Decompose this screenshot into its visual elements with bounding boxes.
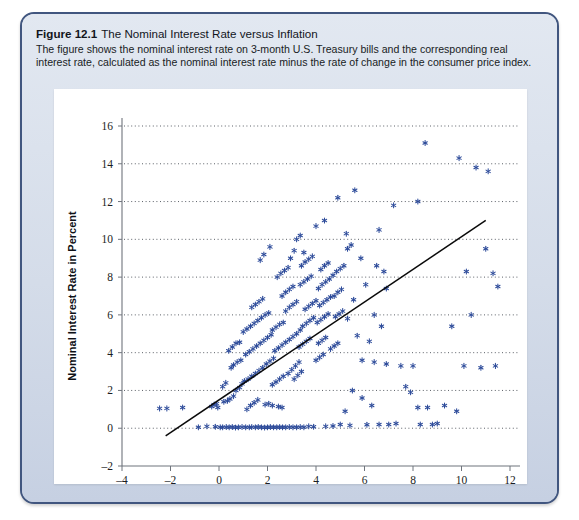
y-tick-label: –2	[101, 460, 114, 472]
regression-line	[166, 220, 486, 435]
data-point	[281, 320, 285, 325]
data-point	[384, 362, 388, 367]
data-point	[374, 263, 378, 268]
data-point	[430, 422, 434, 427]
data-point	[364, 282, 368, 287]
data-point	[265, 425, 269, 430]
data-point	[442, 403, 446, 408]
data-point	[277, 425, 281, 430]
x-tick-label: 6	[362, 474, 368, 484]
data-point	[491, 271, 495, 276]
data-point	[293, 363, 297, 368]
data-point	[296, 373, 300, 378]
data-point	[345, 316, 349, 321]
data-point	[343, 409, 347, 414]
data-point	[457, 156, 461, 161]
data-point	[345, 246, 349, 251]
data-points-group	[157, 141, 500, 430]
data-point	[294, 237, 298, 242]
data-point	[404, 384, 408, 389]
data-point	[382, 269, 386, 274]
data-point	[372, 360, 376, 365]
data-point	[292, 248, 296, 253]
x-tick-label: –4	[115, 474, 128, 484]
data-point	[286, 371, 290, 376]
data-point	[262, 425, 266, 430]
figure-number: Figure 12.1	[36, 27, 97, 40]
x-tick-label: 2	[265, 474, 271, 484]
data-point	[359, 256, 363, 261]
data-point	[377, 422, 381, 427]
x-tick-label: 10	[456, 474, 468, 484]
y-tick-label: 6	[107, 309, 113, 321]
figure-title: Figure 12.1The Nominal Interest Rate ver…	[36, 26, 542, 41]
figure-title-text: The Nominal Interest Rate versus Inflati…	[101, 27, 318, 40]
data-point	[220, 384, 224, 389]
data-point	[344, 231, 348, 236]
data-point	[360, 396, 364, 401]
y-tick-label: 2	[107, 384, 113, 396]
figure-card-inner: Figure 12.1The Nominal Interest Rate ver…	[22, 14, 557, 502]
data-point	[425, 405, 429, 410]
data-point	[298, 328, 302, 333]
data-point	[367, 339, 371, 344]
data-point	[411, 363, 415, 368]
data-point	[418, 422, 422, 427]
data-point	[462, 363, 466, 368]
y-tick-label: 4	[107, 347, 113, 359]
x-tick-label: 0	[216, 474, 222, 484]
data-point	[493, 363, 497, 368]
x-tick-label: 8	[410, 474, 416, 484]
data-point	[387, 422, 391, 427]
data-point	[280, 294, 284, 299]
data-point	[324, 424, 328, 429]
plot-panel: –20246810121416–4–2024681012 Inflation R…	[54, 89, 527, 484]
y-tick-label: 8	[107, 271, 113, 283]
data-point	[302, 250, 306, 255]
data-point	[157, 406, 161, 411]
figure-caption-block: Figure 12.1The Nominal Interest Rate ver…	[36, 26, 542, 70]
data-point	[268, 425, 272, 430]
data-point	[365, 422, 369, 427]
data-point	[486, 169, 490, 174]
data-point	[196, 425, 200, 430]
data-point	[391, 203, 395, 208]
data-point	[351, 297, 355, 302]
data-point	[267, 311, 271, 316]
data-point	[316, 286, 320, 291]
data-point	[377, 227, 381, 232]
data-point	[496, 284, 500, 289]
data-point	[299, 369, 303, 374]
data-point	[338, 422, 342, 427]
figure-caption-text: The figure shows the nominal interest ra…	[36, 43, 542, 70]
data-point	[314, 224, 318, 229]
data-point	[213, 424, 217, 429]
data-point	[360, 358, 364, 363]
tick-labels-group: –20246810121416–4–2024681012	[101, 120, 517, 484]
data-point	[268, 244, 272, 249]
x-tick-label: 4	[313, 474, 319, 484]
data-point	[307, 424, 311, 429]
data-point	[239, 358, 243, 363]
y-tick-label: 0	[107, 422, 113, 434]
data-point	[394, 421, 398, 426]
axes-group	[122, 118, 520, 466]
data-point	[454, 409, 458, 414]
data-point	[435, 421, 439, 426]
data-point	[355, 333, 359, 338]
data-point	[298, 233, 302, 238]
data-point	[416, 405, 420, 410]
data-point	[450, 324, 454, 329]
y-tick-label: 14	[102, 158, 114, 170]
data-point	[227, 348, 231, 353]
data-point	[322, 218, 326, 223]
x-tick-label: –2	[164, 474, 177, 484]
data-point	[165, 406, 169, 411]
data-point	[224, 380, 228, 385]
data-point	[423, 141, 427, 146]
y-tick-label: 12	[102, 196, 114, 208]
data-point	[292, 377, 296, 382]
scatter-plot: –20246810121416–4–2024681012 Inflation R…	[54, 89, 527, 484]
data-point	[331, 273, 335, 278]
gridlines-group	[124, 126, 520, 428]
